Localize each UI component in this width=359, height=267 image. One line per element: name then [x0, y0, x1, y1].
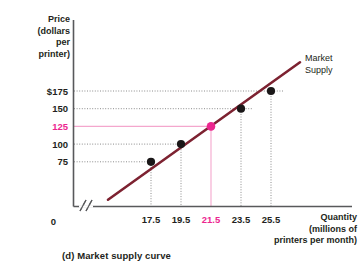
y-axis-title-line-1: Price	[0, 14, 70, 26]
series-label-line-2: Supply	[305, 65, 359, 77]
origin-label: 0	[40, 216, 56, 227]
x-axis-title: Quantity (millions of printers per month…	[237, 212, 357, 247]
market-supply-chart: Price (dollars per printer) $175 150 125…	[0, 0, 359, 267]
vertical-gridlines	[151, 91, 271, 206]
y-tick-label-150: 150	[18, 103, 68, 114]
y-axis-title-line-2: (dollars	[0, 26, 70, 38]
x-axis-title-line-3: printers per month)	[237, 235, 357, 247]
y-tick-label-125: 125	[18, 121, 68, 132]
figure-caption: (d) Market supply curve	[62, 250, 171, 261]
y-axis-title-line-4: printer)	[0, 49, 70, 61]
data-point-25-5	[267, 87, 275, 95]
x-axis-title-line-2: (millions of	[237, 224, 357, 236]
y-axis-title-line-3: per	[0, 37, 70, 49]
y-tick-label-100: 100	[18, 139, 68, 150]
data-point-23-5	[237, 105, 245, 113]
series-label-line-1: Market	[305, 53, 359, 65]
y-tick-label-75: 75	[18, 156, 68, 167]
y-tick-label-175: $175	[18, 86, 68, 97]
x-axis-title-line-1: Quantity	[237, 212, 357, 224]
horizontal-gridlines	[74, 91, 283, 162]
data-point-21-5-highlight	[207, 122, 216, 131]
data-point-17-5	[147, 158, 155, 166]
series-label-market-supply: Market Supply	[305, 53, 359, 76]
y-axis-title: Price (dollars per printer)	[0, 14, 70, 60]
data-point-19-5	[177, 140, 185, 148]
axis-break-icon	[79, 200, 93, 211]
